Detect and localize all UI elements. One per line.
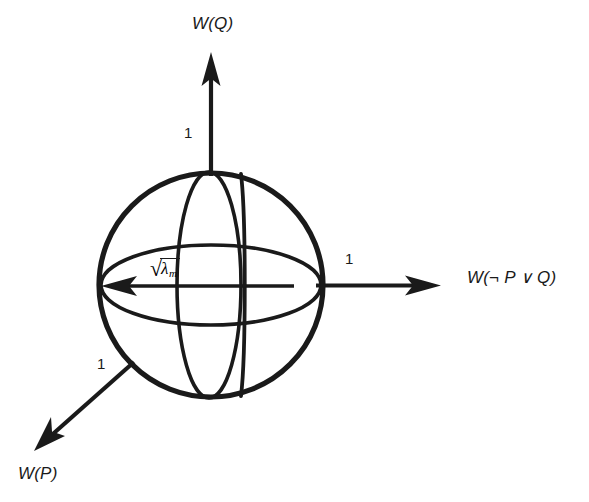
npq-axis-tick-label: 1 (345, 250, 353, 267)
q-axis-tick-label: 1 (184, 124, 192, 141)
radius-magnitude-label: √λm (150, 258, 180, 280)
lambda-subscript: m (169, 267, 177, 279)
radius-arrow (101, 276, 294, 296)
q-axis-label: W(Q) (192, 14, 233, 34)
radicand: λm (160, 258, 180, 280)
q-axis-arrow (202, 52, 221, 176)
p-axis-arrow (34, 362, 134, 451)
npq-axis-arrow (316, 276, 441, 296)
p-axis-label: W(P) (18, 464, 58, 484)
lambda-symbol: λ (161, 259, 168, 278)
npq-axis-label: W(¬ P ∨ Q) (467, 267, 556, 288)
p-axis-tick-label: 1 (97, 355, 105, 372)
figure-canvas: W(Q) W(¬ P ∨ Q) W(P) 1 1 1 √λm (0, 0, 589, 502)
sphere-axes-diagram (0, 0, 589, 502)
